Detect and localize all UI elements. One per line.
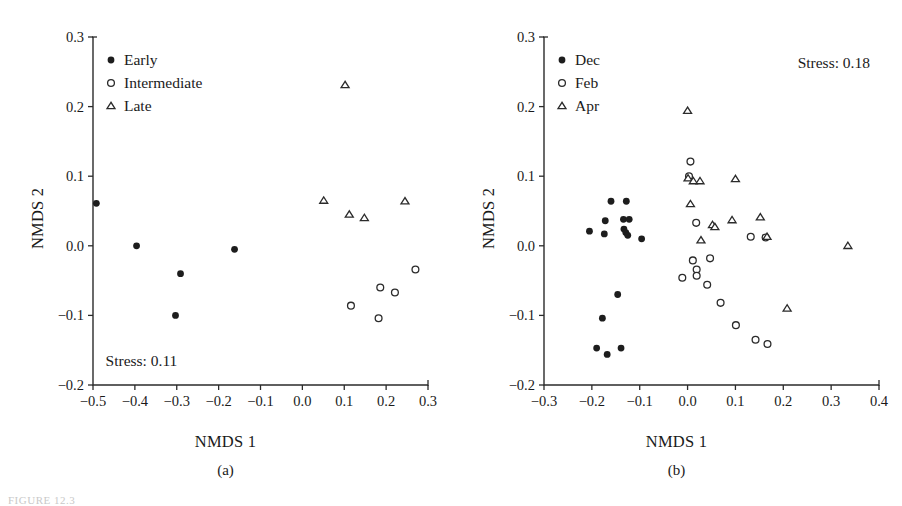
panel-a-y-axis-title: NMDS 2 [28,188,48,249]
data-point-apr [697,237,705,243]
legend-marker-apr [558,102,566,108]
data-point-dec [618,345,625,352]
data-point-dec [614,291,621,298]
data-point-intermediate [348,302,355,309]
x-tick-label: −0.2 [205,393,231,409]
legend-marker-dec [559,57,566,64]
x-tick-label: 0.2 [377,393,395,409]
x-tick-label: 0.3 [419,393,437,409]
data-point-early [172,312,179,319]
panel-a-plot: −0.2−0.10.00.10.20.3−0.5−0.4−0.3−0.2−0.1… [0,0,451,430]
data-point-dec [608,198,615,205]
legend: EarlyIntermediateLate [107,51,202,114]
x-tick-label: 0.1 [726,393,744,409]
series-late [320,81,409,220]
data-point-apr [684,107,692,113]
data-point-apr [731,175,739,181]
data-point-late [320,197,328,203]
series-dec [586,198,645,358]
stress-annotation: Stress: 0.18 [798,54,871,71]
panel-b-plot: −0.2−0.10.00.10.20.3−0.3−0.2−0.10.00.10.… [451,0,902,430]
data-point-early [133,242,140,249]
data-point-feb [747,233,754,240]
data-point-feb [693,219,700,226]
data-point-feb [752,336,759,343]
panel-b: −0.2−0.10.00.10.20.3−0.3−0.2−0.10.00.10.… [451,0,902,506]
stress-annotation: Stress: 0.11 [106,352,178,369]
panel-a: −0.2−0.10.00.10.20.3−0.5−0.4−0.3−0.2−0.1… [0,0,451,506]
y-tick-label: 0.3 [517,29,535,45]
legend-marker-feb [559,80,566,87]
data-point-early [93,200,100,207]
data-point-apr [686,200,694,206]
series-intermediate [348,266,419,322]
legend: DecFebApr [558,51,600,114]
data-point-dec [593,345,600,352]
data-point-apr [783,305,791,311]
data-point-dec [604,351,611,358]
figure-caption: FIGURE 12.3 [8,494,75,506]
data-point-dec [638,235,645,242]
y-tick-label: −0.1 [509,307,535,323]
legend-label-apr: Apr [575,97,600,114]
y-tick-label: 0.2 [66,99,84,115]
data-point-dec [626,216,633,223]
panel-a-label: (a) [0,462,451,479]
x-tick-label: −0.2 [579,393,605,409]
series-early [93,200,238,319]
nmds-figure: −0.2−0.10.00.10.20.3−0.5−0.4−0.3−0.2−0.1… [0,0,902,506]
data-point-dec [623,198,630,205]
data-point-feb [733,322,740,329]
x-tick-label: 0.4 [870,393,889,409]
y-tick-label: −0.1 [58,307,84,323]
data-point-late [345,211,353,217]
x-tick-label: 0.3 [822,393,840,409]
data-point-feb [764,341,771,348]
data-point-late [341,81,349,87]
data-point-apr [756,214,764,220]
data-point-dec [602,217,609,224]
data-point-dec [599,315,606,322]
x-tick-label: −0.5 [80,393,106,409]
y-tick-label: 0.0 [66,238,84,254]
data-point-feb [717,299,724,306]
y-tick-label: −0.2 [58,377,84,393]
data-point-intermediate [412,266,419,273]
y-tick-label: −0.2 [509,377,535,393]
x-tick-label: 0.0 [679,393,697,409]
data-point-dec [586,228,593,235]
data-point-apr [696,177,704,183]
y-tick-label: 0.3 [66,29,84,45]
x-tick-label: −0.1 [627,393,653,409]
data-point-early [231,246,238,253]
legend-marker-late [107,102,115,108]
panel-b-x-axis-title: NMDS 1 [451,432,902,452]
data-point-intermediate [375,315,382,322]
x-tick-label: 0.1 [335,393,353,409]
legend-label-feb: Feb [575,74,599,91]
x-tick-label: −0.1 [247,393,273,409]
data-point-feb [689,257,696,264]
data-point-late [360,214,368,220]
y-tick-label: 0.0 [517,238,535,254]
data-point-dec [601,231,608,238]
data-point-early [177,270,184,277]
data-point-apr [844,242,852,248]
data-point-feb [687,158,694,165]
panel-a-x-axis-title: NMDS 1 [0,432,451,452]
legend-marker-early [108,57,115,64]
x-tick-label: −0.4 [122,393,149,409]
y-tick-label: 0.1 [517,168,535,184]
data-point-dec [624,232,631,239]
data-point-feb [704,281,711,288]
data-point-apr [728,216,736,222]
series-feb [679,158,771,347]
legend-label-dec: Dec [575,51,600,68]
series-apr [684,107,852,311]
legend-label-intermediate: Intermediate [124,74,202,91]
data-point-feb [679,274,686,281]
x-tick-label: −0.3 [164,393,190,409]
legend-label-late: Late [124,97,152,114]
panel-b-label: (b) [451,462,902,479]
y-tick-label: 0.1 [66,168,84,184]
